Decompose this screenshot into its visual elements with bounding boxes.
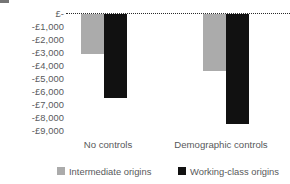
- bar-chart: £- -£1,000 -£2,000 -£3,000 -£4,000 -£5,0…: [0, 0, 290, 184]
- bar-no-controls-working-class-origins: [104, 14, 127, 98]
- light-gray-square-icon: [57, 167, 65, 175]
- y-axis: £- -£1,000 -£2,000 -£3,000 -£4,000 -£5,0…: [0, 0, 64, 140]
- x-axis-category-label-no-controls: No controls: [48, 139, 168, 151]
- bar-no-controls-intermediate-origins: [81, 14, 104, 54]
- y-axis-tick-label: -£8,000: [2, 113, 64, 123]
- y-axis-tick-label: -£3,000: [2, 48, 64, 58]
- legend-item-label: Working-class origins: [190, 166, 279, 177]
- y-axis-tick-label: -£4,000: [2, 61, 64, 71]
- y-axis-tick-label: -£5,000: [2, 74, 64, 84]
- legend-item-working-class-origins: Working-class origins: [178, 164, 279, 178]
- plot-area: [66, 0, 290, 136]
- legend-item-intermediate-origins: Intermediate origins: [57, 164, 151, 178]
- legend: Intermediate origins Working-class origi…: [0, 164, 290, 180]
- black-square-icon: [178, 167, 186, 175]
- bar-demographic-controls-intermediate-origins: [203, 14, 226, 71]
- x-axis-category-label-demographic-controls: Demographic controls: [152, 139, 290, 151]
- y-axis-tick-label: -£2,000: [2, 35, 64, 45]
- legend-item-label: Intermediate origins: [69, 166, 151, 177]
- y-axis-tick-label: £-: [2, 9, 64, 19]
- y-axis-tick-label: -£1,000: [2, 22, 64, 32]
- y-axis-tick-label: -£6,000: [2, 87, 64, 97]
- bar-demographic-controls-working-class-origins: [226, 14, 249, 124]
- y-axis-tick-label: -£9,000: [2, 126, 64, 136]
- y-axis-tick-label: -£7,000: [2, 100, 64, 110]
